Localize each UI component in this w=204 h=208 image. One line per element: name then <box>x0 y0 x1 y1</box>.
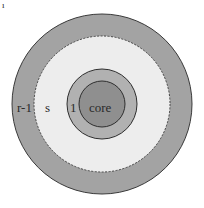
label-core: core <box>89 100 112 115</box>
label-r-1: r-1 <box>17 100 32 115</box>
label-s: s <box>45 100 50 115</box>
label-1: 1 <box>70 100 77 115</box>
concentric-ring-diagram: ı r-1 s 1 core <box>0 0 204 208</box>
corner-mark: ı <box>2 0 5 10</box>
